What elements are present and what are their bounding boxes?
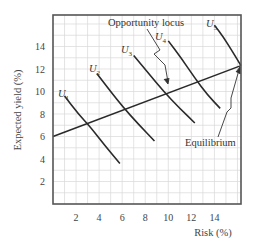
curve-label-u1: U1 [58,88,70,102]
y-tick-label: 4 [40,154,45,165]
y-tick-label: 2 [40,176,45,187]
plot-frame [53,15,241,204]
x-tick-label: 4 [97,212,102,223]
arrowhead-icon [164,78,169,84]
grid [53,15,241,204]
y-tick-label: 14 [35,41,45,52]
y-tick-label: 8 [40,109,45,120]
y-tick-label: 10 [35,86,45,97]
x-tick-label: 12 [186,212,196,223]
y-tick-label: 12 [35,64,45,75]
x-tick-label: 8 [143,212,148,223]
x-tick-label: 14 [209,212,219,223]
x-tick-label: 10 [163,212,173,223]
tick-labels: 24681012142468101214 [35,41,219,223]
opportunity-locus-label: Opportunity locus [108,17,184,28]
indifference-curve-u2 [97,74,155,142]
equilibrium-label: Equilibrium [185,137,236,148]
x-tick-label: 2 [74,212,79,223]
x-axis-label: Risk (%) [194,227,232,239]
y-tick-label: 6 [40,131,45,142]
indifference-curve-u4 [168,41,220,109]
curve-label-u5: U5 [206,18,218,32]
y-axis-label: Expected yield (%) [12,69,24,151]
x-tick-label: 6 [120,212,125,223]
indifference-curve-u5 [214,25,241,66]
chart: 24681012142468101214 Expected yield (%) … [0,0,255,244]
curve-label-u3: U3 [121,44,133,58]
